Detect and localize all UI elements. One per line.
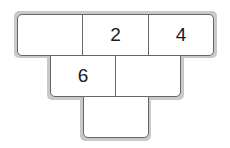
pyramid-cell-middle-1: 6 [50,55,116,97]
pyramid-cell-top-3: 4 [148,14,214,56]
pyramid-cell-middle-2 [115,55,181,97]
pyramid-cell-bottom-1 [83,96,149,138]
pyramid-cell-top-2: 2 [82,14,149,56]
pyramid-cell-top-1 [17,14,83,56]
